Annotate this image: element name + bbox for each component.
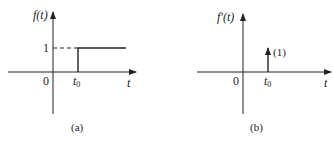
panel-a-y-label: f(t) [33,8,48,22]
panel-b-impulse-function: f′(t) (1) 0 t0 t (b) [197,10,331,134]
diagram-canvas: f(t) 1 0 t0 t (a) f′(t) (1) 0 t0 t (b) [0,0,333,141]
panel-b-t0-label: t0 [264,74,271,89]
panel-b-origin-label: 0 [233,74,239,88]
panel-a-caption: (a) [71,121,84,134]
panel-a-t0-label: t0 [73,74,80,89]
panel-b-x-label: t [324,76,328,90]
panel-a-level-label: 1 [43,41,49,55]
panel-b-impulse-strength-label: (1) [273,46,286,59]
panel-a-x-label: t [127,76,131,90]
panel-b-y-label: f′(t) [217,10,234,24]
panel-a-step-curve [78,48,126,72]
panel-b-caption: (b) [250,121,263,134]
panel-a-step-function: f(t) 1 0 t0 t (a) [8,8,136,134]
panel-a-origin-label: 0 [43,74,49,88]
